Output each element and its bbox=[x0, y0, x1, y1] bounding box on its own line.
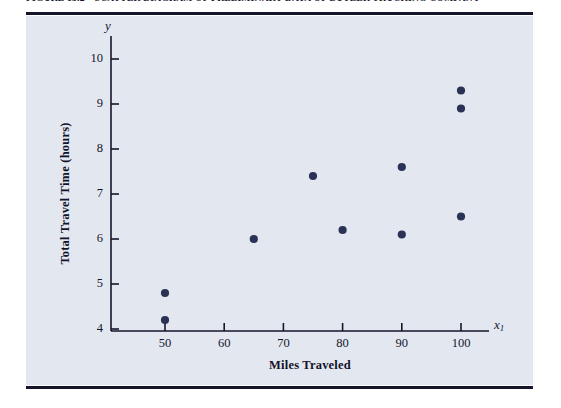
y-axis-variable-label: y bbox=[105, 18, 111, 34]
rule-bottom bbox=[26, 386, 533, 389]
y-axis-title: Total Travel Time (hours) bbox=[58, 99, 73, 289]
y-axis-tick-label: 10 bbox=[77, 51, 103, 66]
y-axis-tick-label: 7 bbox=[77, 186, 103, 201]
x-axis-tick-label: 90 bbox=[385, 336, 419, 351]
x-axis-tick-label: 70 bbox=[266, 336, 300, 351]
x-axis-tick-label: 100 bbox=[444, 336, 478, 351]
y-axis-tick-label: 4 bbox=[77, 321, 103, 336]
x-axis-tick-label: 50 bbox=[148, 336, 182, 351]
figure-number: FIGURE 15.2 bbox=[26, 0, 85, 3]
y-axis-tick-label: 9 bbox=[77, 96, 103, 111]
x-axis-tick-label: 60 bbox=[207, 336, 241, 351]
x-axis-tick-label: 80 bbox=[326, 336, 360, 351]
x-axis-title: Miles Traveled bbox=[160, 358, 460, 373]
figure-container: FIGURE 15.2SCATTER DIAGRAM OF PRELIMINAR… bbox=[0, 0, 561, 408]
x-axis-variable-label: x1 bbox=[494, 317, 504, 333]
rule-top bbox=[26, 12, 533, 15]
figure-caption: FIGURE 15.2SCATTER DIAGRAM OF PRELIMINAR… bbox=[26, 0, 546, 5]
y-axis-tick-label: 5 bbox=[77, 276, 103, 291]
y-axis-tick-label: 8 bbox=[77, 141, 103, 156]
figure-caption-text: SCATTER DIAGRAM OF PRELIMINARY DATA OF B… bbox=[95, 0, 480, 3]
y-axis-tick-label: 6 bbox=[77, 231, 103, 246]
